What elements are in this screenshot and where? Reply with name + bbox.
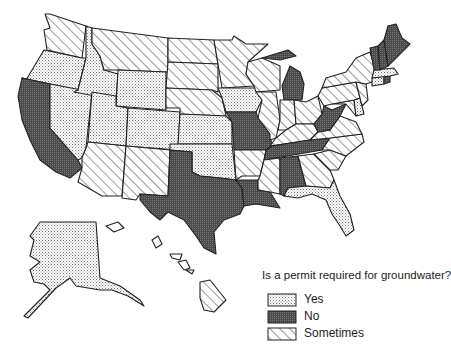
legend-item-sometimes: Sometimes bbox=[304, 326, 364, 340]
legend-swatch-sometimes bbox=[268, 328, 296, 340]
state-FL bbox=[284, 180, 354, 236]
state-WI bbox=[246, 58, 280, 92]
state-RI bbox=[384, 76, 390, 84]
state-NY bbox=[322, 52, 376, 88]
state-AZ bbox=[78, 142, 126, 196]
legend-item-yes: Yes bbox=[304, 292, 324, 306]
legend-swatch-no bbox=[268, 311, 296, 323]
legend-label-no: No bbox=[304, 309, 319, 323]
island-outline bbox=[106, 222, 124, 232]
state-AK bbox=[24, 222, 144, 318]
legend-item-no: No bbox=[304, 309, 319, 323]
state-KS bbox=[178, 114, 232, 144]
state-WY bbox=[116, 70, 166, 110]
legend-swatch-yes bbox=[268, 294, 296, 306]
state-ND bbox=[168, 38, 218, 64]
legend bbox=[268, 294, 296, 340]
state-SD bbox=[166, 62, 218, 92]
state-NM bbox=[122, 146, 170, 200]
state-ME bbox=[384, 24, 410, 66]
state-MT bbox=[92, 28, 168, 72]
legend-label-yes: Yes bbox=[304, 292, 324, 306]
legend-label-sometimes: Sometimes bbox=[304, 326, 364, 340]
legend-title: Is a permit required for groundwater? bbox=[262, 269, 451, 281]
